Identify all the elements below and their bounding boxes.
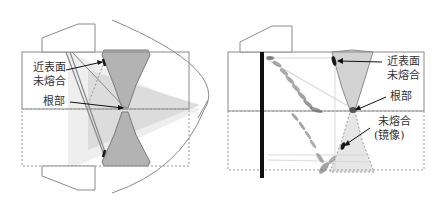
echo-scatter (266, 56, 337, 175)
root-arrow (356, 97, 386, 110)
left-diagram-graphic (0, 0, 220, 203)
label-lof-mirror-line2: (镜像) (374, 129, 405, 142)
probe (240, 26, 292, 52)
left-diagram-panel: 近表面 未熔合 根部 (0, 0, 220, 203)
bottom-probe-mirror (42, 166, 95, 190)
weld-lower-half-mirror (330, 112, 374, 172)
label-lof-mirror-line1: 未熔合 (378, 115, 411, 128)
beam-fan-mid (88, 70, 200, 150)
label-near-surface-line2: 未熔合 (33, 75, 66, 88)
label-near-surface-line1: 近表面 (387, 55, 420, 68)
arc-tick (198, 100, 208, 118)
right-diagram-panel: 近表面 未熔合 根部 未熔合 (镜像) (220, 0, 439, 203)
near-surface-arrowhead (97, 60, 103, 65)
weld-upper-half (332, 50, 373, 110)
label-near-surface-line2: 未熔合 (387, 69, 420, 82)
label-root: 根部 (390, 90, 412, 103)
label-root: 根部 (43, 95, 65, 108)
probe-element-bar (260, 52, 264, 178)
label-near-surface-line1: 近表面 (33, 61, 66, 74)
top-probe (42, 24, 95, 52)
